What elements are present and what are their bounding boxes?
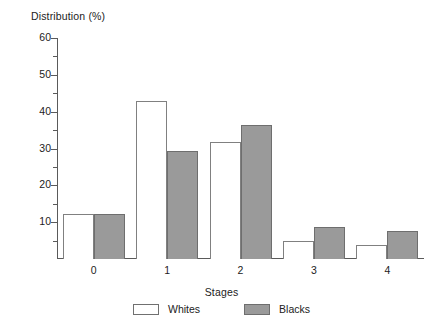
x-axis-tick-labels: 01234 — [57, 264, 424, 280]
chart-legend: WhitesBlacks — [0, 303, 443, 315]
bar-blacks-stage-1 — [167, 151, 198, 259]
x-axis-tick-label-4: 4 — [384, 264, 390, 276]
x-axis-title: Stages — [0, 286, 443, 298]
y-axis-minor-tick — [53, 167, 57, 168]
y-axis-minor-tick — [53, 93, 57, 94]
y-axis-minor-tick — [53, 56, 57, 57]
bar-whites-stage-0 — [63, 214, 94, 259]
legend-label: Whites — [168, 303, 200, 315]
y-axis-major-tick — [51, 112, 57, 113]
y-axis-tick-label: 60 — [39, 31, 51, 43]
x-axis-tick-label-3: 3 — [311, 264, 317, 276]
bar-chart: Distribution (%) 102030405060 01234 Stag… — [0, 0, 443, 329]
y-axis-major-tick — [51, 222, 57, 223]
bar-blacks-stage-2 — [241, 125, 272, 259]
y-axis-tick-label: 20 — [39, 178, 51, 190]
y-axis-tick-label: 30 — [39, 142, 51, 154]
y-axis-tick-label: 40 — [39, 105, 51, 117]
y-axis-tick-label: 10 — [39, 215, 51, 227]
bars-layer — [57, 38, 424, 259]
bar-blacks-stage-4 — [387, 231, 418, 259]
legend-label: Blacks — [279, 303, 310, 315]
y-axis-minor-tick — [53, 204, 57, 205]
bar-whites-stage-3 — [283, 241, 314, 259]
bar-whites-stage-1 — [136, 101, 167, 259]
y-axis-tick-labels: 102030405060 — [25, 38, 51, 259]
bar-whites-stage-2 — [210, 142, 241, 259]
bar-whites-stage-4 — [356, 245, 387, 259]
y-axis-major-tick — [51, 38, 57, 39]
legend-item-blacks: Blacks — [244, 303, 310, 315]
y-axis-title: Distribution (%) — [31, 10, 105, 22]
y-axis-major-tick — [51, 185, 57, 186]
y-axis-minor-tick — [53, 241, 57, 242]
y-axis-minor-tick — [53, 130, 57, 131]
x-axis-tick-label-1: 1 — [164, 264, 170, 276]
y-axis-major-tick — [51, 149, 57, 150]
y-axis-major-tick — [51, 75, 57, 76]
y-axis-tick-label: 50 — [39, 68, 51, 80]
legend-swatch-icon-blacks — [244, 304, 270, 315]
x-axis-tick-label-0: 0 — [91, 264, 97, 276]
bar-blacks-stage-3 — [314, 227, 345, 259]
legend-item-whites: Whites — [133, 303, 200, 315]
bar-blacks-stage-0 — [94, 214, 125, 259]
legend-swatch-icon-whites — [133, 304, 159, 315]
x-axis-tick-label-2: 2 — [238, 264, 244, 276]
plot-area — [57, 38, 424, 259]
